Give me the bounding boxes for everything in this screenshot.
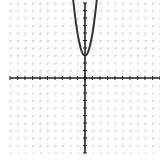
coordinate-plane (0, 0, 160, 160)
